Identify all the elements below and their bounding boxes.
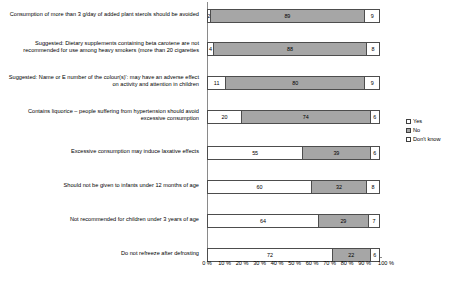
- legend-swatch-icon: [406, 119, 411, 124]
- category-label: Do not refreeze after defrosting: [2, 250, 199, 257]
- legend-item[interactable]: Don't know: [406, 135, 458, 143]
- bar-segment-yes: 20: [207, 110, 242, 124]
- bar-segment-yes: 55: [207, 146, 303, 160]
- category-label: Suggested: Name or E number of the colou…: [2, 74, 199, 88]
- bar-segment-don-t-know: 6: [370, 110, 381, 124]
- bar-row: 60328: [207, 180, 382, 194]
- x-tick-label: 100 %: [378, 260, 394, 267]
- category-label: Contains liquorice – people suffering fr…: [2, 108, 199, 122]
- legend-swatch-icon: [406, 137, 411, 142]
- legend-label: Yes: [413, 118, 422, 124]
- bar-row: 55396: [207, 146, 382, 160]
- x-tick-label: 90 %: [352, 260, 378, 267]
- bar-segment-no: 29: [318, 214, 369, 228]
- bar-segment-yes: 64: [207, 214, 319, 228]
- bar-segment-don-t-know: 7: [368, 214, 380, 228]
- category-label: Should not be given to infants under 12 …: [2, 182, 199, 189]
- legend-label: No: [413, 127, 420, 133]
- category-label: Consumption of more than 3 g/day of adde…: [2, 11, 199, 18]
- legend-swatch-icon: [406, 128, 411, 133]
- bar-segment-no: 80: [225, 76, 365, 90]
- bar-segment-no: 89: [210, 9, 366, 23]
- bar-segment-don-t-know: 9: [364, 76, 380, 90]
- category-label: Not recommended for children under 3 yea…: [2, 216, 199, 223]
- stacked-bar-chart: Consumption of more than 3 g/day of adde…: [0, 0, 459, 289]
- bar-segment-don-t-know: 6: [370, 146, 381, 160]
- legend-label: Don't know: [413, 136, 441, 142]
- legend-item[interactable]: No: [406, 126, 458, 134]
- bar-segment-don-t-know: 9: [364, 9, 380, 23]
- bar-segment-no: 39: [302, 146, 370, 160]
- bar-segment-no: 32: [311, 180, 367, 194]
- category-label: Excessive consumption may induce laxativ…: [2, 148, 199, 155]
- legend-item[interactable]: Yes: [406, 117, 458, 125]
- bar-segment-yes: 60: [207, 180, 312, 194]
- bar-segment-no: 88: [213, 42, 367, 56]
- x-axis-tick-labels: 0 %10 %20 %30 %40 %50 %60 %70 %80 %90 %1…: [207, 260, 387, 286]
- bar-segment-no: 74: [241, 110, 371, 124]
- category-label: Suggested: Dietary supplements containin…: [2, 40, 199, 54]
- bar-row: 20746: [207, 110, 382, 124]
- category-label-column: Consumption of more than 3 g/day of adde…: [0, 0, 203, 258]
- chart-legend: YesNoDon't know: [406, 117, 458, 144]
- bar-segment-yes: 11: [207, 76, 226, 90]
- bar-segment-don-t-know: 8: [366, 42, 380, 56]
- bar-row: 11809: [207, 76, 382, 90]
- bar-row: 2899: [207, 9, 382, 23]
- bar-row: 4888: [207, 42, 382, 56]
- bar-row: 64297: [207, 214, 382, 228]
- plot-area: 28994888118092074655396603286429772226: [207, 2, 382, 258]
- bar-segment-don-t-know: 8: [366, 180, 380, 194]
